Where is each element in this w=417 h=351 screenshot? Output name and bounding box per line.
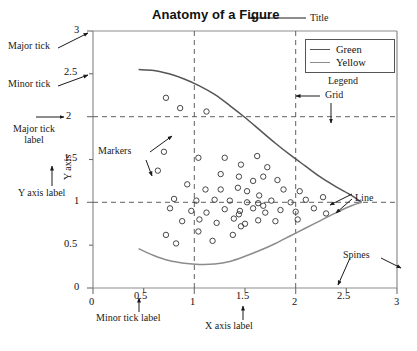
annotation-title-label: Title: [310, 13, 329, 24]
scatter-marker: [295, 217, 300, 222]
annotation-minor-tick-label: Minor tick label: [96, 313, 160, 324]
arrow-spines-right: [381, 258, 401, 268]
arrow-spines-bottom: [338, 258, 350, 285]
x-tick-label-0p5: 0.5: [134, 290, 147, 301]
arrow-markers-1: [150, 136, 172, 152]
scatter-marker: [171, 196, 176, 201]
scatter-marker: [214, 220, 219, 225]
arrow-markers-2: [146, 160, 152, 176]
scatter-marker: [196, 229, 201, 234]
scatter-marker: [204, 109, 209, 114]
scatter-marker: [235, 185, 240, 190]
scatter-marker: [254, 153, 259, 158]
scatter-marker: [261, 203, 266, 208]
legend-entry-green: Green: [310, 43, 388, 56]
scatter-marker: [255, 200, 260, 205]
scatter-marker: [255, 218, 260, 223]
scatter-marker: [210, 238, 215, 243]
scatter-marker: [265, 165, 270, 170]
figure-title: Anatomy of a Figure: [152, 7, 280, 22]
scatter-marker: [281, 187, 286, 192]
scatter-marker: [197, 217, 202, 222]
annotation-line: Line: [355, 193, 373, 204]
annotation-major-tick-label-line2: label: [2, 135, 66, 146]
y-tick-label-0: 0: [74, 281, 79, 292]
annotation-grid: Grid: [325, 90, 343, 101]
annotation-spines: Spines: [343, 250, 370, 261]
annotation-x-axis-label: X axis label: [205, 321, 253, 332]
y-tick-label-1: 1: [74, 195, 79, 206]
scatter-marker: [297, 189, 302, 194]
scatter-marker: [185, 182, 190, 187]
legend-label-yellow: Yellow: [336, 57, 366, 68]
scatter-marker: [163, 95, 168, 100]
scatter-marker: [250, 178, 255, 183]
annotation-major-tick-label-line1: Major tick: [2, 124, 66, 135]
annotation-markers: Markers: [98, 146, 131, 157]
scatter-marker: [218, 171, 223, 176]
scatter-marker: [278, 207, 283, 212]
legend-entry-yellow: Yellow: [310, 56, 388, 69]
scatter-marker: [236, 174, 241, 179]
scatter-marker: [311, 206, 316, 211]
series-markers: [155, 95, 329, 246]
arrow-major-tick: [58, 33, 88, 48]
scatter-marker: [196, 155, 201, 160]
annotation-legend-label: Legend: [328, 76, 358, 87]
scatter-marker: [303, 197, 308, 202]
scatter-marker: [261, 174, 266, 179]
scatter-marker: [237, 208, 242, 213]
annotation-major-tick: Major tick: [8, 41, 50, 52]
legend-swatch-yellow: [310, 62, 330, 63]
scatter-marker: [238, 162, 243, 167]
scatter-marker: [222, 206, 227, 211]
annotation-minor-tick: Minor tick: [8, 79, 51, 90]
y-tick-label-0p5: 0.5: [64, 238, 77, 249]
scatter-marker: [273, 218, 278, 223]
scatter-marker: [230, 232, 235, 237]
scatter-marker: [236, 212, 241, 217]
scatter-marker: [177, 105, 182, 110]
scatter-marker: [222, 155, 227, 160]
annotation-major-tick-label: Major tick label: [2, 124, 66, 145]
scatter-marker: [179, 218, 184, 223]
legend-box[interactable]: Green Yellow: [305, 39, 395, 73]
scatter-marker: [163, 232, 168, 237]
scatter-marker: [204, 210, 209, 215]
scatter-marker: [263, 210, 268, 215]
scatter-marker: [189, 208, 194, 213]
x-tick-label-0: 0: [89, 296, 94, 307]
scatter-marker: [269, 198, 274, 203]
legend-label-green: Green: [336, 44, 362, 55]
y-ticks-group: [87, 31, 93, 288]
scatter-marker: [238, 224, 243, 229]
legend-swatch-green: [310, 49, 330, 50]
x-tick-label-2: 2: [292, 296, 297, 307]
annotation-y-axis-text: Y axis: [62, 155, 73, 180]
x-tick-label-1p5: 1.5: [236, 290, 249, 301]
annotation-y-axis-label: Y axis label: [18, 188, 65, 199]
scatter-marker: [218, 187, 223, 192]
y-tick-label-2p5: 2.5: [64, 66, 77, 77]
x-tick-label-2p5: 2.5: [337, 290, 350, 301]
scatter-marker: [212, 197, 217, 202]
x-tick-label-1: 1: [190, 296, 195, 307]
scatter-marker: [250, 206, 255, 211]
scatter-marker: [320, 194, 325, 199]
scatter-marker: [231, 216, 236, 221]
scatter-marker: [203, 187, 208, 192]
y-tick-label-3: 3: [74, 24, 79, 35]
scatter-marker: [155, 168, 160, 173]
y-tick-label-2: 2: [66, 110, 71, 121]
scatter-marker: [167, 206, 172, 211]
x-tick-label-3: 3: [394, 296, 399, 307]
scatter-marker: [275, 177, 280, 182]
scatter-marker: [173, 241, 178, 246]
scatter-marker: [161, 149, 166, 154]
scatter-marker: [323, 211, 328, 216]
arrow-line-1: [330, 194, 352, 205]
scatter-marker: [256, 193, 261, 198]
figure-canvas: Anatomy of a Figure Title Green Yellow L…: [0, 0, 417, 351]
scatter-marker: [244, 189, 249, 194]
